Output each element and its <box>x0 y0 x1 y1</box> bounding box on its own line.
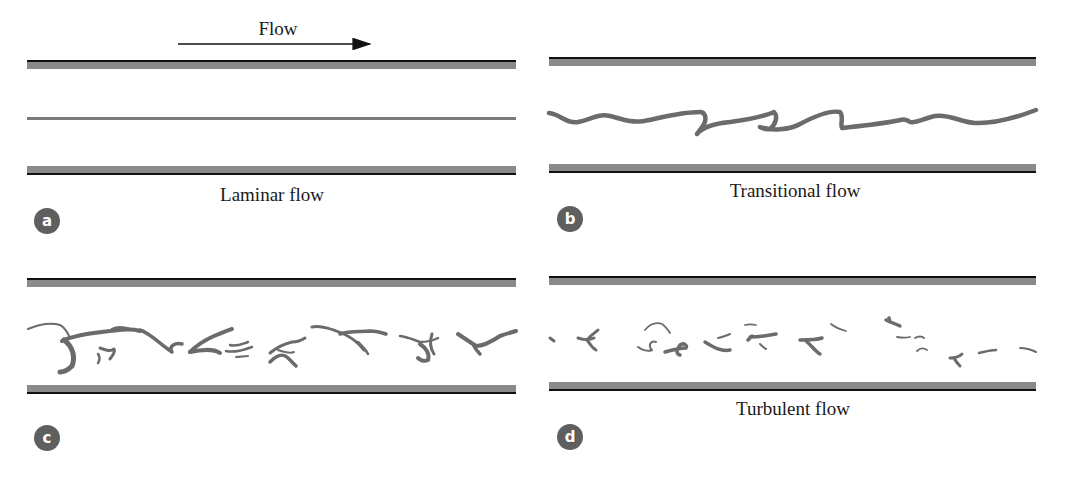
panel-badge-c: c <box>34 425 60 451</box>
panel-c-turbulent <box>27 278 516 394</box>
pipe-bottom-wall <box>27 385 516 394</box>
turbulent-fragments <box>550 318 1036 366</box>
pipe-top-wall <box>27 278 516 287</box>
pipe-bottom-wall <box>549 382 1036 391</box>
caption-transitional-flow: Transitional flow <box>730 180 861 202</box>
panel-badge-d: d <box>557 424 583 450</box>
flow-diagram-canvas <box>0 0 1067 483</box>
panel-b-transitional <box>549 57 1036 173</box>
panel-d-turbulent <box>549 276 1036 391</box>
laminar-streamline <box>27 117 516 120</box>
pipe-bottom-wall <box>27 166 516 175</box>
pipe-top-wall <box>549 57 1036 66</box>
pipe-bottom-wall <box>549 164 1036 173</box>
pipe-top-wall <box>27 60 516 69</box>
caption-turbulent-flow: Turbulent flow <box>736 398 850 420</box>
panel-a-laminar <box>27 60 516 175</box>
turbulent-eddies <box>28 324 516 372</box>
panel-badge-a: a <box>34 208 60 234</box>
caption-laminar-flow: Laminar flow <box>220 184 324 206</box>
panel-badge-b: b <box>557 206 583 232</box>
transitional-wavy-streamline <box>549 110 1036 134</box>
pipe-top-wall <box>549 276 1036 285</box>
